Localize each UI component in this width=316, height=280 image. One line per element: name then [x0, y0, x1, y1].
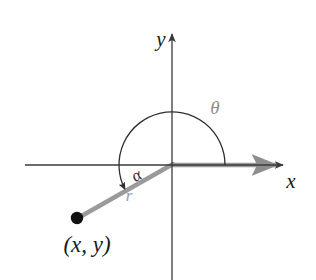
figure-canvas: y x θ α r (x, y): [0, 0, 316, 280]
theta-label: θ: [210, 97, 219, 118]
point-coordinates-label: (x, y): [63, 232, 110, 257]
y-axis-label: y: [154, 27, 166, 51]
terminal-point-dot: [71, 212, 83, 224]
r-label: r: [126, 186, 133, 205]
x-axis-label: x: [285, 169, 296, 193]
angle-diagram-svg: y x θ α r (x, y): [0, 0, 316, 280]
